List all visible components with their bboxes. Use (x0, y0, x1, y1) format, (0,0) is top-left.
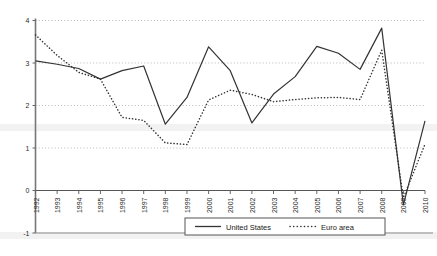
x-tick-label: 2000 (206, 197, 213, 213)
x-tick-label: 1992 (33, 197, 40, 213)
x-tick-label: 1993 (54, 197, 61, 213)
series-line-united-states (36, 28, 426, 205)
x-tick-label: 1998 (162, 197, 169, 213)
x-tick-label: 1999 (184, 197, 191, 213)
x-tick-label: 2003 (271, 197, 278, 213)
x-tick-label: 2004 (292, 197, 299, 213)
x-tick-label: 2008 (379, 197, 386, 213)
y-tick-label: 3 (26, 60, 30, 67)
y-tick-label: 0 (26, 187, 30, 194)
x-tick-label: 2006 (335, 197, 342, 213)
legend: United StatesEuro area (185, 218, 385, 235)
legend-label-united-states: United States (226, 223, 271, 232)
x-tick-label: 2001 (227, 197, 234, 213)
x-tick-label: 2007 (357, 197, 364, 213)
legend-label-euro-area: Euro area (321, 223, 355, 232)
x-axis-ticks: 1992199319941995199619971998199920002001… (33, 191, 430, 214)
x-tick-label: 2002 (249, 197, 256, 213)
x-tick-label: 1997 (141, 197, 148, 213)
series-line-euro-area (36, 35, 426, 198)
y-tick-label: 1 (26, 145, 30, 152)
gridlines (36, 21, 426, 149)
x-tick-label: 1994 (76, 197, 83, 213)
x-tick-label: 2005 (314, 197, 321, 213)
x-tick-label: 1996 (119, 197, 126, 213)
y-tick-label: -1 (23, 230, 29, 237)
y-tick-label: 2 (26, 102, 30, 109)
chart-container: 43210-1 19921993199419951996199719981999… (0, 0, 437, 256)
axes (36, 19, 434, 234)
data-series (36, 28, 426, 205)
line-chart: 43210-1 19921993199419951996199719981999… (0, 0, 437, 256)
x-tick-label: 2010 (422, 197, 429, 213)
y-tick-label: 4 (26, 17, 30, 24)
x-tick-label: 1995 (97, 197, 104, 213)
